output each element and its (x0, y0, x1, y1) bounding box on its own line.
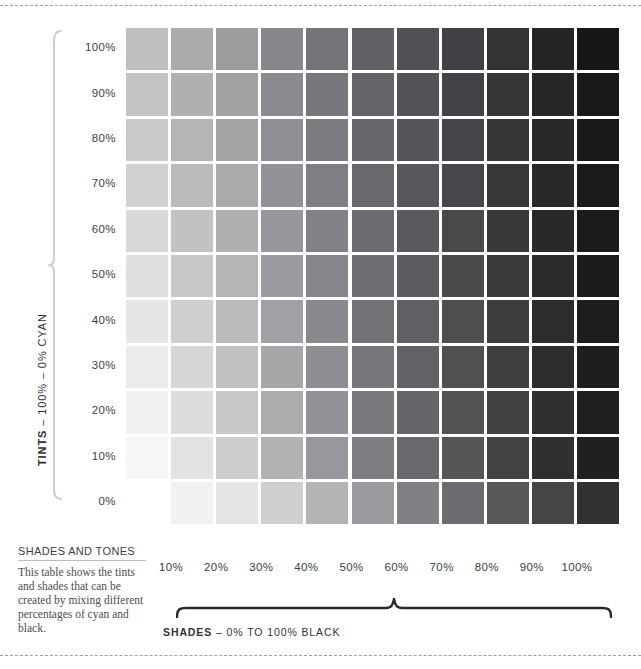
swatch-cell (532, 346, 574, 388)
shades-caption-strong: SHADES (163, 626, 212, 638)
column-label-shade: 90% (509, 561, 554, 573)
swatch-cell (397, 346, 439, 388)
swatch-cell (487, 210, 529, 252)
row-label-tint: 20% (92, 404, 116, 416)
swatch-cell (487, 164, 529, 206)
row-labels: 100%90%80%70%60%50%40%30%20%10%0% (64, 28, 120, 528)
swatch-cell (126, 28, 168, 70)
row-label-tint: 70% (92, 177, 116, 189)
tints-axis-label-rest: – 100% – 0% CYAN (36, 313, 48, 430)
swatch-cell (216, 346, 258, 388)
tints-axis: TINTS – 100% – 0% CYAN (18, 30, 64, 500)
swatch-cell (306, 210, 348, 252)
column-label-shade: 30% (239, 561, 284, 573)
swatch-cell (577, 28, 619, 70)
swatch-cell (261, 300, 303, 342)
column-label-shade: 100% (554, 561, 599, 573)
swatch-cell (487, 482, 529, 524)
swatch-cell (216, 300, 258, 342)
swatch-cell (397, 482, 439, 524)
column-label-shade: 10% (149, 561, 194, 573)
swatch-cell (442, 255, 484, 297)
swatch-cell (306, 391, 348, 433)
swatch-cell (577, 300, 619, 342)
shades-axis-caption: SHADES – 0% TO 100% BLACK (163, 626, 340, 638)
swatch-cell (261, 210, 303, 252)
swatch-cell (126, 119, 168, 161)
row-label-tint: 50% (92, 268, 116, 280)
row-label-tint: 40% (92, 314, 116, 326)
swatch-cell (532, 28, 574, 70)
tints-bracket-icon (48, 30, 62, 500)
swatch-cell (532, 164, 574, 206)
column-label-shade: 50% (329, 561, 374, 573)
swatch-cell (306, 300, 348, 342)
row-label-tint: 0% (99, 495, 116, 507)
swatch-cell (171, 210, 213, 252)
swatch-cell (306, 482, 348, 524)
swatch-cell (171, 346, 213, 388)
swatch-cell (577, 391, 619, 433)
swatch-cell (352, 300, 394, 342)
swatch-cell (442, 482, 484, 524)
column-labels: 10%20%30%40%50%60%70%80%90%100% (126, 561, 622, 579)
swatch-cell (397, 73, 439, 115)
swatch-cell (126, 391, 168, 433)
swatch-cell (352, 164, 394, 206)
column-label-shade: 20% (194, 561, 239, 573)
swatch-cell (577, 255, 619, 297)
swatch-cell (261, 164, 303, 206)
swatch-cell (126, 346, 168, 388)
swatch-cell (216, 119, 258, 161)
swatch-cell (442, 164, 484, 206)
swatch-cell (261, 391, 303, 433)
note-title: SHADES AND TONES (18, 545, 146, 561)
swatch-cell (397, 391, 439, 433)
swatch-cell (397, 255, 439, 297)
swatch-cell (261, 346, 303, 388)
row-label-tint: 10% (92, 450, 116, 462)
note-body: This table shows the tints and shades th… (18, 565, 146, 635)
swatch-cell (442, 346, 484, 388)
swatch-cell (442, 73, 484, 115)
swatch-cell (397, 119, 439, 161)
swatch-cell (577, 437, 619, 479)
swatch-cell (487, 437, 529, 479)
swatch-cell (397, 28, 439, 70)
swatch-cell (171, 300, 213, 342)
swatch-cell (126, 437, 168, 479)
swatch-cell (442, 437, 484, 479)
swatch-cell (306, 28, 348, 70)
row-label-tint: 60% (92, 223, 116, 235)
swatch-cell (487, 28, 529, 70)
swatch-cell (306, 346, 348, 388)
swatch-cell (487, 73, 529, 115)
swatch-grid (126, 28, 622, 528)
swatch-cell (216, 73, 258, 115)
swatch-cell (352, 210, 394, 252)
swatch-cell (442, 119, 484, 161)
note-block: SHADES AND TONES This table shows the ti… (18, 545, 146, 635)
swatch-cell (442, 28, 484, 70)
swatch-cell (126, 300, 168, 342)
swatch-cell (216, 28, 258, 70)
swatch-cell (577, 482, 619, 524)
swatch-cell (487, 346, 529, 388)
swatch-cell (352, 255, 394, 297)
swatch-cell (532, 210, 574, 252)
swatch-cell (352, 119, 394, 161)
swatch-cell (216, 482, 258, 524)
swatch-cell (171, 119, 213, 161)
swatch-cell (577, 119, 619, 161)
swatch-cell (306, 164, 348, 206)
swatch-cell (171, 73, 213, 115)
swatch-cell (442, 210, 484, 252)
swatch-cell (306, 437, 348, 479)
swatch-cell (577, 73, 619, 115)
swatch-cell (397, 210, 439, 252)
swatch-cell (171, 437, 213, 479)
swatch-cell (171, 164, 213, 206)
swatch-cell (171, 391, 213, 433)
shades-caption-rest: – 0% TO 100% BLACK (212, 626, 340, 638)
swatch-cell (216, 391, 258, 433)
